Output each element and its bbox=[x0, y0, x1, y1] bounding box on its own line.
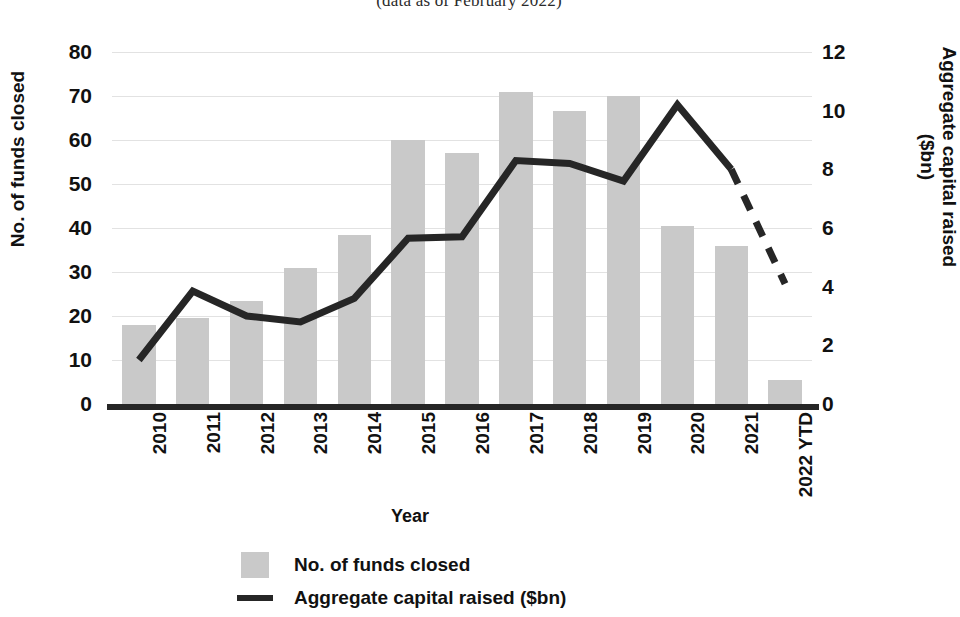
y-axis-left-title: No. of funds closed bbox=[7, 49, 29, 269]
x-axis-tick-text: 2022 YTD bbox=[795, 410, 817, 532]
x-axis-tick-label: 2013 bbox=[310, 412, 332, 532]
x-axis-tick-text: 2021 bbox=[741, 410, 763, 532]
x-axis-tick-text: 2019 bbox=[634, 410, 656, 532]
y-axis-left-tick-label: 80 bbox=[32, 41, 92, 62]
x-axis-tick-label: 2020 bbox=[687, 412, 709, 532]
y-axis-left-tick-label: 20 bbox=[32, 305, 92, 326]
axis-baseline bbox=[107, 404, 819, 410]
x-axis-tick-text: 2013 bbox=[310, 410, 332, 532]
x-axis-tick-label: 2021 bbox=[741, 412, 763, 532]
y-axis-left-tick-label: 50 bbox=[32, 173, 92, 194]
y-axis-right-tick-label: 6 bbox=[822, 217, 872, 238]
y-axis-right-tick-label: 2 bbox=[822, 334, 872, 355]
y-axis-right-title: Aggregate capital raised ($bn) bbox=[916, 37, 960, 277]
y-axis-left-tick-label: 10 bbox=[32, 349, 92, 370]
x-axis-tick-text: 2011 bbox=[203, 410, 225, 532]
y-axis-right-tick-label: 10 bbox=[822, 100, 872, 121]
x-axis-tick-text: 2014 bbox=[364, 410, 386, 532]
x-axis-tick-label: 2015 bbox=[418, 412, 440, 532]
x-axis-tick-text: 2012 bbox=[257, 410, 279, 532]
line-segment-dashed bbox=[731, 169, 785, 283]
x-axis-tick-label: 2012 bbox=[257, 412, 279, 532]
y-axis-right-tick-label: 4 bbox=[822, 276, 872, 297]
legend-line-icon bbox=[237, 595, 273, 601]
x-axis-tick-label: 2018 bbox=[580, 412, 602, 532]
legend-swatch-wrap bbox=[226, 595, 284, 601]
x-axis-tick-text: 2017 bbox=[526, 410, 548, 532]
x-axis-tick-label: 2017 bbox=[526, 412, 548, 532]
x-axis-tick-text: 2018 bbox=[580, 410, 602, 532]
line-series bbox=[112, 52, 812, 404]
y-axis-left-tick-label: 40 bbox=[32, 217, 92, 238]
x-axis-tick-text: 2010 bbox=[149, 410, 171, 532]
y-axis-right-title-line1: Aggregate capital raised bbox=[938, 37, 960, 277]
legend-label: Aggregate capital raised ($bn) bbox=[294, 587, 594, 609]
x-axis-tick-label: 2019 bbox=[634, 412, 656, 532]
x-axis-tick-label: 2022 YTD bbox=[795, 412, 817, 532]
legend-label: No. of funds closed bbox=[294, 554, 594, 576]
chart-subtitle: (data as of February 2022) bbox=[0, 0, 938, 11]
chart-legend: No. of funds closedAggregate capital rai… bbox=[0, 548, 820, 614]
y-axis-right-title-line2: ($bn) bbox=[916, 37, 938, 277]
legend-box-icon bbox=[241, 552, 269, 578]
x-axis-tick-text: 2015 bbox=[418, 410, 440, 532]
x-axis-tick-label: 2014 bbox=[364, 412, 386, 532]
legend-swatch-wrap bbox=[226, 552, 284, 578]
y-axis-left-tick-label: 30 bbox=[32, 261, 92, 282]
line-segment-solid bbox=[139, 105, 731, 360]
x-axis-tick-text: 2020 bbox=[687, 410, 709, 532]
y-axis-right-tick-label: 0 bbox=[822, 393, 872, 414]
y-axis-left-tick-label: 0 bbox=[32, 393, 92, 414]
plot-area bbox=[112, 52, 812, 404]
y-axis-left-tick-label: 70 bbox=[32, 85, 92, 106]
x-axis-tick-label: 2011 bbox=[203, 412, 225, 532]
y-axis-left-tick-label: 60 bbox=[32, 129, 92, 150]
x-axis-tick-label: 2010 bbox=[149, 412, 171, 532]
y-axis-right-tick-label: 12 bbox=[822, 41, 872, 62]
legend-item[interactable]: Aggregate capital raised ($bn) bbox=[0, 581, 820, 614]
y-axis-right-tick-label: 8 bbox=[822, 158, 872, 179]
legend-item[interactable]: No. of funds closed bbox=[0, 548, 820, 581]
x-axis-tick-text: 2016 bbox=[472, 410, 494, 532]
x-axis-tick-label: 2016 bbox=[472, 412, 494, 532]
